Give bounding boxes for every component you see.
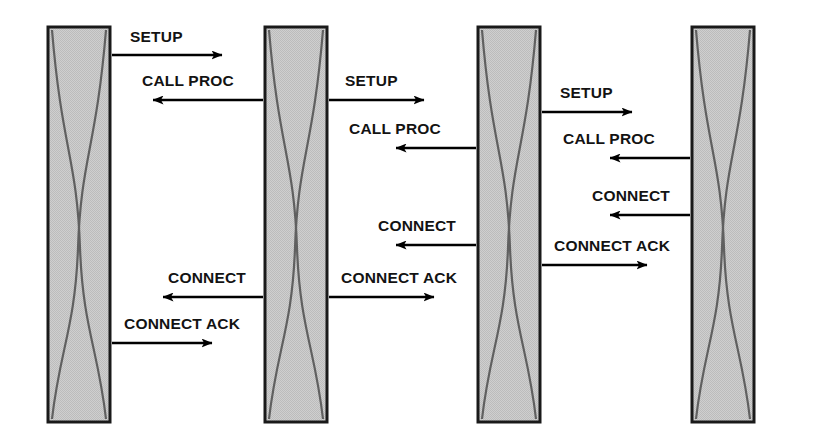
message-connect-m3[interactable]: CONNECT <box>163 269 263 297</box>
switch-column-2[interactable] <box>265 27 327 422</box>
message-label: CALL PROC <box>563 130 655 147</box>
message-label: SETUP <box>560 84 613 101</box>
message-connect-m11[interactable]: CONNECT <box>592 187 690 215</box>
diagram-canvas: SETUPCALL PROCCONNECTCONNECT ACKSETUPCAL… <box>0 0 818 447</box>
message-connect-ack-m8[interactable]: CONNECT ACK <box>329 269 458 297</box>
message-label: CALL PROC <box>349 120 441 137</box>
message-setup-m9[interactable]: SETUP <box>542 84 632 112</box>
message-setup-m5[interactable]: SETUP <box>329 72 424 100</box>
sequence-diagram: SETUPCALL PROCCONNECTCONNECT ACKSETUPCAL… <box>0 0 818 447</box>
message-label: CONNECT <box>168 269 246 286</box>
message-label: SETUP <box>130 28 183 45</box>
message-label: CONNECT ACK <box>554 237 671 254</box>
switch-column-1[interactable] <box>48 27 110 422</box>
message-label: CONNECT <box>592 187 670 204</box>
messages-layer: SETUPCALL PROCCONNECTCONNECT ACKSETUPCAL… <box>112 28 690 343</box>
message-call-proc-m6[interactable]: CALL PROC <box>349 120 476 148</box>
message-connect-ack-m12[interactable]: CONNECT ACK <box>542 237 671 265</box>
message-label: CONNECT ACK <box>124 315 241 332</box>
message-label: SETUP <box>345 72 398 89</box>
switch-column-3[interactable] <box>478 27 540 422</box>
message-label: CONNECT <box>378 217 456 234</box>
message-call-proc-m2[interactable]: CALL PROC <box>142 72 263 100</box>
message-setup-m1[interactable]: SETUP <box>112 28 222 55</box>
switch-column-4[interactable] <box>692 27 754 422</box>
message-call-proc-m10[interactable]: CALL PROC <box>563 130 690 158</box>
message-label: CALL PROC <box>142 72 234 89</box>
message-connect-m7[interactable]: CONNECT <box>378 217 476 245</box>
message-connect-ack-m4[interactable]: CONNECT ACK <box>112 315 241 343</box>
message-label: CONNECT ACK <box>341 269 458 286</box>
